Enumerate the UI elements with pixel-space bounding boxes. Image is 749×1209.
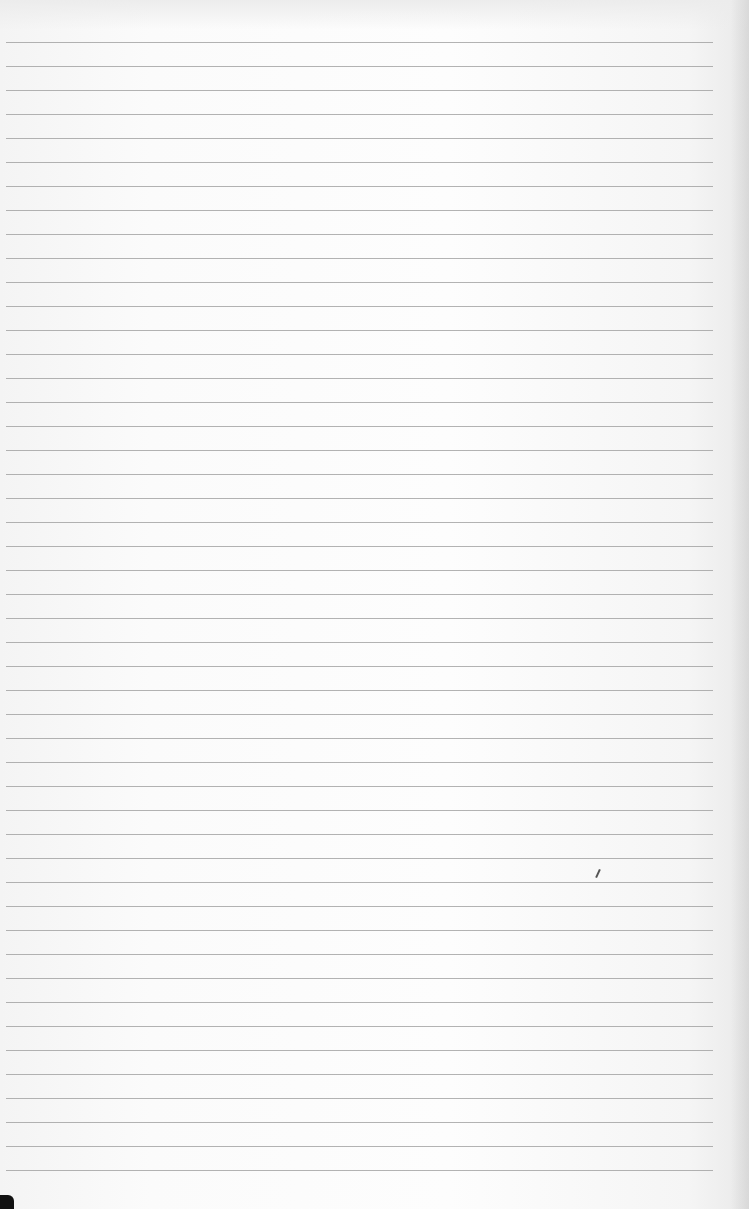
right-edge-shadow xyxy=(731,0,749,1209)
ruled-line xyxy=(6,282,713,283)
ruled-line xyxy=(6,978,713,979)
ruled-line xyxy=(6,738,713,739)
ruled-line xyxy=(6,906,713,907)
ruled-line xyxy=(6,1122,713,1123)
ruled-line xyxy=(6,114,713,115)
ruled-line xyxy=(6,594,713,595)
ruled-line xyxy=(6,1146,713,1147)
lined-paper-sheet xyxy=(0,0,749,1209)
ruled-line xyxy=(6,762,713,763)
ruled-line xyxy=(6,690,713,691)
ruled-line xyxy=(6,450,713,451)
ruled-line xyxy=(6,234,713,235)
ruled-line xyxy=(6,834,713,835)
ruled-line xyxy=(6,258,713,259)
ruled-line xyxy=(6,426,713,427)
ruled-line xyxy=(6,1098,713,1099)
ruled-line xyxy=(6,930,713,931)
ruled-line xyxy=(6,858,713,859)
dark-corner-object xyxy=(0,1195,14,1209)
ruled-line xyxy=(6,546,713,547)
ruled-line xyxy=(6,306,713,307)
ruled-line xyxy=(6,954,713,955)
ruled-line xyxy=(6,1050,713,1051)
ruled-line xyxy=(6,378,713,379)
ruled-line xyxy=(6,522,713,523)
ruled-line xyxy=(6,1074,713,1075)
ruled-line xyxy=(6,1026,713,1027)
ruled-line xyxy=(6,786,713,787)
ruled-line xyxy=(6,186,713,187)
ruled-line xyxy=(6,498,713,499)
ruled-line xyxy=(6,330,713,331)
pen-mark xyxy=(595,869,601,878)
ruled-line xyxy=(6,570,713,571)
ruled-line xyxy=(6,162,713,163)
ruled-line xyxy=(6,402,713,403)
ruled-line xyxy=(6,1170,713,1171)
ruled-line xyxy=(6,138,713,139)
ruled-line xyxy=(6,42,713,43)
ruled-line xyxy=(6,714,713,715)
ruled-line xyxy=(6,618,713,619)
ruled-line xyxy=(6,882,713,883)
ruled-line xyxy=(6,810,713,811)
top-shadow xyxy=(0,0,749,30)
ruled-line xyxy=(6,666,713,667)
ruled-line xyxy=(6,474,713,475)
ruled-line xyxy=(6,90,713,91)
ruled-line xyxy=(6,210,713,211)
ruled-line xyxy=(6,354,713,355)
ruled-line xyxy=(6,642,713,643)
ruled-line xyxy=(6,66,713,67)
ruled-line xyxy=(6,1002,713,1003)
